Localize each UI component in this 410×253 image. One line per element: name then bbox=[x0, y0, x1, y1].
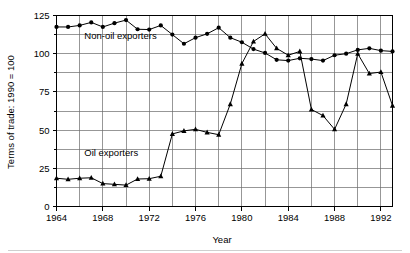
data-point-marker-triangle bbox=[158, 173, 163, 178]
data-point-marker-circle bbox=[379, 49, 383, 53]
data-point-marker-circle bbox=[112, 21, 116, 25]
data-point-marker-circle bbox=[344, 52, 348, 56]
data-point-marker-circle bbox=[286, 58, 290, 62]
x-tick-label: 1980 bbox=[231, 212, 252, 223]
data-point-marker-triangle bbox=[297, 49, 302, 54]
data-point-marker-triangle bbox=[228, 101, 233, 106]
data-point-marker-triangle bbox=[390, 103, 395, 108]
data-point-marker-circle bbox=[54, 25, 58, 29]
grid-layer bbox=[57, 16, 393, 207]
data-point-marker-circle bbox=[78, 23, 82, 27]
y-tick-label: 100 bbox=[34, 48, 50, 59]
series-polyline bbox=[57, 34, 393, 185]
x-tick-label: 1972 bbox=[139, 212, 160, 223]
oil-exporters-annotation: Oil exporters bbox=[84, 147, 138, 158]
terms-of-trade-chart: 0255075100125 19641968197219761980198419… bbox=[0, 0, 410, 253]
series-layer bbox=[54, 18, 395, 187]
series-annotations: Non-oil exportersOil exporters bbox=[84, 30, 157, 158]
data-point-marker-circle bbox=[101, 25, 105, 29]
data-point-marker-circle bbox=[321, 58, 325, 62]
data-point-marker-circle bbox=[217, 26, 221, 30]
y-axis-title: Terms of trade: 1990 = 100 bbox=[5, 55, 16, 169]
x-tick-label: 1964 bbox=[46, 212, 67, 223]
y-tick-label: 50 bbox=[39, 125, 50, 136]
tick-marks bbox=[53, 16, 381, 211]
non-oil-exporters-annotation: Non-oil exporters bbox=[84, 30, 157, 41]
y-tick-label: 25 bbox=[39, 163, 50, 174]
chart-svg: 0255075100125 19641968197219761980198419… bbox=[0, 0, 410, 253]
data-point-marker-circle bbox=[170, 33, 174, 37]
x-tick-labels: 19641968197219761980198419881992 bbox=[46, 212, 392, 223]
data-point-marker-circle bbox=[89, 20, 93, 24]
data-point-marker-circle bbox=[309, 57, 313, 61]
data-point-marker-circle bbox=[193, 36, 197, 40]
data-point-marker-triangle bbox=[262, 31, 267, 36]
x-tick-label: 1968 bbox=[92, 212, 113, 223]
data-point-marker-circle bbox=[263, 51, 267, 55]
x-tick-label: 1976 bbox=[185, 212, 206, 223]
data-point-marker-circle bbox=[124, 18, 128, 22]
y-tick-label: 75 bbox=[39, 86, 50, 97]
y-tick-label: 125 bbox=[34, 10, 50, 21]
data-point-marker-circle bbox=[182, 42, 186, 46]
data-point-marker-circle bbox=[205, 32, 209, 36]
data-point-marker-triangle bbox=[193, 127, 198, 132]
data-point-marker-triangle bbox=[355, 51, 360, 56]
data-point-marker-triangle bbox=[378, 69, 383, 74]
x-tick-label: 1992 bbox=[370, 212, 391, 223]
y-tick-label: 0 bbox=[44, 201, 49, 212]
data-point-marker-circle bbox=[66, 25, 70, 29]
x-tick-label: 1988 bbox=[324, 212, 345, 223]
data-point-marker-circle bbox=[332, 53, 336, 57]
data-point-marker-triangle bbox=[239, 61, 244, 66]
x-tick-label: 1984 bbox=[278, 212, 299, 223]
data-point-marker-circle bbox=[367, 46, 371, 50]
data-point-marker-triangle bbox=[251, 39, 256, 44]
data-point-marker-circle bbox=[228, 36, 232, 40]
data-point-marker-circle bbox=[251, 47, 255, 51]
data-point-marker-circle bbox=[159, 23, 163, 27]
data-point-marker-circle bbox=[390, 49, 394, 53]
data-point-marker-triangle bbox=[309, 107, 314, 112]
data-point-marker-triangle bbox=[344, 101, 349, 106]
data-point-marker-triangle bbox=[54, 175, 59, 180]
y-tick-labels: 0255075100125 bbox=[34, 10, 50, 212]
data-point-marker-circle bbox=[275, 58, 279, 62]
x-axis-title: Year bbox=[212, 234, 231, 245]
data-point-marker-circle bbox=[240, 40, 244, 44]
